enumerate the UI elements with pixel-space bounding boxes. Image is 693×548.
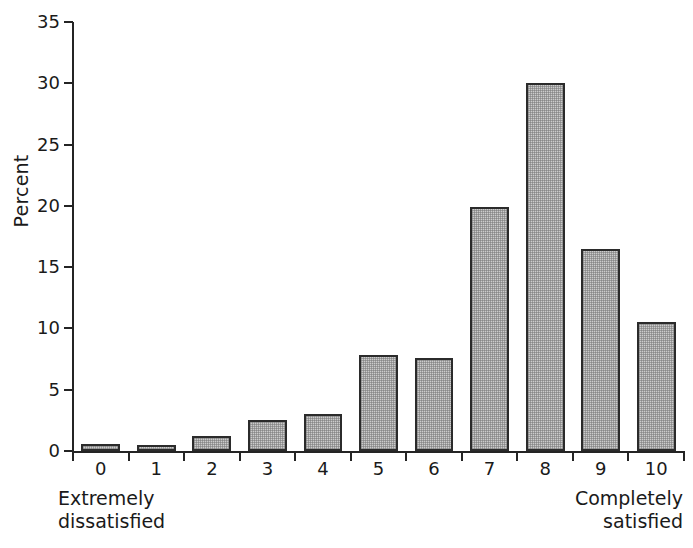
x-axis-tick bbox=[350, 453, 352, 461]
bar-chart: Percent 05101520253035 012345678910 Extr… bbox=[0, 0, 693, 548]
y-axis-tick-label: 15 bbox=[20, 258, 60, 276]
bar bbox=[81, 444, 120, 451]
x-axis-tick-label: 4 bbox=[299, 459, 347, 479]
x-axis-tick bbox=[72, 453, 74, 461]
x-axis-tick-label: 5 bbox=[355, 459, 403, 479]
x-axis-tick bbox=[461, 453, 463, 461]
y-axis-tick-label-wrap: 5 bbox=[12, 381, 60, 399]
y-axis-tick-label: 5 bbox=[20, 381, 60, 399]
y-axis-tick-label: 30 bbox=[20, 74, 60, 92]
x-axis-tick bbox=[627, 453, 629, 461]
y-axis-tick-label-wrap: 20 bbox=[12, 197, 60, 215]
x-axis-tick bbox=[405, 453, 407, 461]
x-axis-tick-label: 0 bbox=[77, 459, 125, 479]
y-axis-tick bbox=[64, 266, 73, 268]
y-axis-tick bbox=[64, 450, 73, 452]
y-axis-tick-label-wrap: 35 bbox=[12, 13, 60, 31]
y-axis-tick bbox=[64, 21, 73, 23]
bar bbox=[137, 445, 176, 451]
x-axis-tick bbox=[128, 453, 130, 461]
plot-area bbox=[73, 22, 684, 451]
bar bbox=[526, 83, 565, 451]
y-axis-tick bbox=[64, 389, 73, 391]
x-axis-tick bbox=[683, 453, 685, 461]
x-axis-tick-label: 2 bbox=[188, 459, 236, 479]
x-axis-tick bbox=[572, 453, 574, 461]
x-axis-tick-label: 6 bbox=[410, 459, 458, 479]
y-axis-tick bbox=[64, 82, 73, 84]
bar bbox=[581, 249, 620, 451]
annotation-extremely-dissatisfied: Extremely dissatisfied bbox=[58, 487, 165, 533]
y-axis-tick-label: 0 bbox=[20, 442, 60, 460]
y-axis-tick-label: 10 bbox=[20, 319, 60, 337]
y-axis-tick bbox=[64, 327, 73, 329]
bar bbox=[637, 322, 676, 451]
x-axis-tick bbox=[183, 453, 185, 461]
annotation-completely-satisfied: Completely satisfied bbox=[575, 487, 683, 533]
y-axis-tick bbox=[64, 144, 73, 146]
bar bbox=[248, 420, 287, 451]
y-axis-tick-label-wrap: 0 bbox=[12, 442, 60, 460]
y-axis-tick-label: 25 bbox=[20, 136, 60, 154]
y-axis-tick-label: 20 bbox=[20, 197, 60, 215]
y-axis-tick-label: 35 bbox=[20, 13, 60, 31]
bar bbox=[470, 207, 509, 451]
y-axis-tick-label-wrap: 25 bbox=[12, 136, 60, 154]
x-axis-tick bbox=[239, 453, 241, 461]
x-axis-tick bbox=[294, 453, 296, 461]
x-axis-tick-label: 9 bbox=[577, 459, 625, 479]
x-axis-tick-label: 1 bbox=[132, 459, 180, 479]
x-axis-tick-label: 10 bbox=[632, 459, 680, 479]
y-axis-tick-label-wrap: 10 bbox=[12, 319, 60, 337]
bar bbox=[304, 414, 343, 451]
x-axis-tick-label: 3 bbox=[243, 459, 291, 479]
bar bbox=[359, 355, 398, 451]
x-axis-tick-label: 7 bbox=[466, 459, 514, 479]
x-axis-line bbox=[72, 451, 685, 453]
x-axis-tick-label: 8 bbox=[521, 459, 569, 479]
bar bbox=[192, 436, 231, 451]
y-axis-tick-label-wrap: 15 bbox=[12, 258, 60, 276]
y-axis-tick-label-wrap: 30 bbox=[12, 74, 60, 92]
y-axis-tick bbox=[64, 205, 73, 207]
x-axis-tick bbox=[516, 453, 518, 461]
bar bbox=[415, 358, 454, 451]
